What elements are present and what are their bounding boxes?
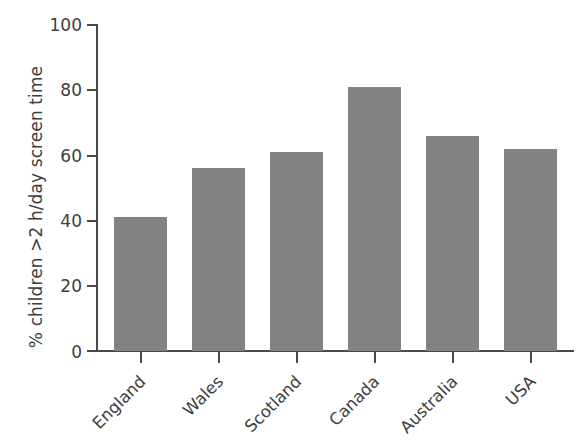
y-tick-mark-80	[87, 89, 96, 91]
y-tick-label-20: 20	[22, 278, 82, 295]
y-tick-label-0: 0	[22, 344, 82, 361]
bar-australia[interactable]	[426, 136, 479, 351]
y-tick-mark-40	[87, 220, 96, 222]
y-tick-label-100: 100	[22, 17, 82, 34]
x-tick-mark-canada	[374, 352, 376, 363]
y-axis-title: % children >2 h/day screen time	[19, 27, 53, 387]
y-tick-label-60: 60	[22, 148, 82, 165]
bar-chart: % children >2 h/day screen time 100 80 6…	[0, 0, 584, 448]
x-axis-label-australia: Australia	[396, 372, 461, 437]
y-tick-mark-60	[87, 155, 96, 157]
x-axis-label-usa: USA	[502, 372, 540, 410]
y-tick-mark-20	[87, 285, 96, 287]
plot-area	[96, 25, 574, 351]
x-axis-label-scotland: Scotland	[241, 372, 305, 436]
y-tick-mark-100	[87, 24, 96, 26]
bar-canada[interactable]	[348, 87, 401, 351]
x-tick-mark-wales	[218, 352, 220, 363]
x-tick-mark-usa	[530, 352, 532, 363]
x-tick-mark-australia	[452, 352, 454, 363]
x-tick-mark-england	[140, 352, 142, 363]
y-tick-label-80: 80	[22, 82, 82, 99]
x-tick-mark-scotland	[296, 352, 298, 363]
bar-wales[interactable]	[192, 168, 245, 351]
x-axis-label-england: England	[89, 372, 150, 433]
x-axis-label-canada: Canada	[325, 372, 383, 430]
y-tick-mark-0	[87, 350, 96, 352]
bar-scotland[interactable]	[270, 152, 323, 351]
bar-usa[interactable]	[504, 149, 557, 351]
y-tick-label-40: 40	[22, 213, 82, 230]
x-axis-label-wales: Wales	[179, 372, 227, 420]
bar-england[interactable]	[114, 217, 167, 351]
